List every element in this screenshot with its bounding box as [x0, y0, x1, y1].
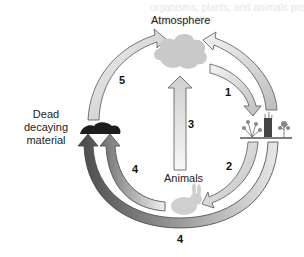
arrow-label-1: 1	[225, 86, 231, 98]
arrow-label-5: 5	[119, 74, 125, 86]
plants-icon	[240, 112, 292, 138]
arrow-label-4-inner: 4	[132, 163, 138, 175]
arrow-5-decomposition	[88, 29, 166, 120]
dead-material-line-1: Dead	[16, 108, 76, 121]
dead-material-line-2: decaying	[16, 121, 76, 134]
label-animals: Animals	[164, 172, 203, 185]
label-atmosphere: Atmosphere	[151, 14, 210, 27]
rabbit-icon	[171, 183, 202, 215]
arrow-label-3: 3	[188, 118, 194, 130]
label-dead-material: Dead decaying material	[16, 108, 76, 147]
dead-material-line-3: material	[16, 134, 76, 147]
arrow-label-2: 2	[226, 160, 232, 172]
arrow-label-4-outer: 4	[177, 233, 183, 245]
dead-material-mound-icon	[80, 122, 121, 134]
